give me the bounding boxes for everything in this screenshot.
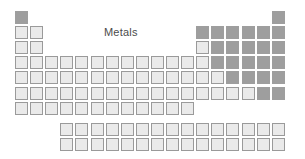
- element-cell-g16-p5: [242, 71, 255, 84]
- element-cell-g9-p6: [136, 87, 149, 100]
- element-cell-g15-p3: [226, 41, 239, 54]
- element-cell-g12-p6: [181, 87, 194, 100]
- element-cell-g2-p2: [30, 26, 43, 39]
- element-cell-g8-p5: [121, 71, 134, 84]
- lanthanides-cell-11: [211, 123, 224, 136]
- element-cell-g9-p5: [136, 71, 149, 84]
- element-cell-g14-p5: [211, 71, 224, 84]
- element-cell-g11-p7: [166, 102, 179, 115]
- actinides-cell-6: [136, 138, 149, 151]
- element-cell-g16-p2: [242, 26, 255, 39]
- actinides-cell-12: [226, 138, 239, 151]
- element-cell-g15-p4: [226, 56, 239, 69]
- element-cell-g18-p6: [272, 87, 285, 100]
- element-cell-g16-p4: [242, 56, 255, 69]
- lanthanides-cell-8: [166, 123, 179, 136]
- element-cell-g6-p5: [91, 71, 104, 84]
- element-cell-g2-p4: [30, 56, 43, 69]
- actinides-cell-1: [60, 138, 73, 151]
- actinides-cell-5: [121, 138, 134, 151]
- element-cell-g1-p7: [15, 102, 28, 115]
- actinides-cell-2: [75, 138, 88, 151]
- element-cell-g14-p2: [211, 26, 224, 39]
- element-cell-g1-p6: [15, 87, 28, 100]
- element-cell-g5-p4: [75, 56, 88, 69]
- lanthanides-cell-10: [196, 123, 209, 136]
- element-cell-g14-p4: [211, 56, 224, 69]
- element-cell-g4-p5: [60, 71, 73, 84]
- lanthanides-cell-3: [91, 123, 104, 136]
- element-cell-g3-p5: [45, 71, 58, 84]
- element-cell-g13-p4: [196, 56, 209, 69]
- actinides-cell-4: [106, 138, 119, 151]
- lanthanides-cell-1: [60, 123, 73, 136]
- element-cell-g13-p5: [196, 71, 209, 84]
- element-cell-g3-p4: [45, 56, 58, 69]
- lanthanides-cell-4: [106, 123, 119, 136]
- element-cell-g7-p4: [106, 56, 119, 69]
- actinides-cell-7: [151, 138, 164, 151]
- periodic-table-diagram: Metals: [0, 0, 305, 159]
- element-cell-g2-p6: [30, 87, 43, 100]
- element-cell-g12-p4: [181, 56, 194, 69]
- element-cell-g8-p7: [121, 102, 134, 115]
- element-cell-g7-p5: [106, 71, 119, 84]
- element-cell-g10-p6: [151, 87, 164, 100]
- element-cell-g16-p3: [242, 41, 255, 54]
- element-cell-g17-p2: [257, 26, 270, 39]
- element-cell-g11-p5: [166, 71, 179, 84]
- element-cell-g9-p4: [136, 56, 149, 69]
- lanthanides-cell-13: [242, 123, 255, 136]
- element-cell-g15-p6: [226, 87, 239, 100]
- element-cell-g4-p4: [60, 56, 73, 69]
- lanthanides-cell-7: [151, 123, 164, 136]
- element-cell-g1-p2: [15, 26, 28, 39]
- actinides-cell-9: [181, 138, 194, 151]
- element-cell-g15-p2: [226, 26, 239, 39]
- actinides-cell-11: [211, 138, 224, 151]
- element-cell-g16-p6: [242, 87, 255, 100]
- lanthanides-cell-15: [272, 123, 285, 136]
- element-cell-g14-p3: [211, 41, 224, 54]
- element-cell-g17-p4: [257, 56, 270, 69]
- element-cell-g3-p7: [45, 102, 58, 115]
- actinides-cell-15: [272, 138, 285, 151]
- lanthanides-cell-14: [257, 123, 270, 136]
- element-cell-g10-p5: [151, 71, 164, 84]
- element-cell-g15-p5: [226, 71, 239, 84]
- metals-label: Metals: [104, 27, 138, 38]
- element-cell-g1-p5: [15, 71, 28, 84]
- element-cell-g18-p3: [272, 41, 285, 54]
- element-cell-g5-p5: [75, 71, 88, 84]
- actinides-cell-14: [257, 138, 270, 151]
- element-cell-g17-p3: [257, 41, 270, 54]
- element-cell-g18-p2: [272, 26, 285, 39]
- element-cell-g2-p5: [30, 71, 43, 84]
- element-cell-g7-p6: [106, 87, 119, 100]
- element-cell-g6-p6: [91, 87, 104, 100]
- lanthanides-cell-5: [121, 123, 134, 136]
- element-cell-g8-p6: [121, 87, 134, 100]
- element-cell-g1-p3: [15, 41, 28, 54]
- element-cell-g17-p5: [257, 71, 270, 84]
- element-cell-g18-p1: [272, 11, 285, 24]
- element-cell-g7-p7: [106, 102, 119, 115]
- element-cell-g10-p7: [151, 102, 164, 115]
- element-cell-g14-p6: [211, 87, 224, 100]
- element-cell-g6-p7: [91, 102, 104, 115]
- element-cell-g6-p4: [91, 56, 104, 69]
- element-cell-g13-p6: [196, 87, 209, 100]
- element-cell-g17-p6: [257, 87, 270, 100]
- element-cell-g5-p7: [75, 102, 88, 115]
- element-cell-g18-p5: [272, 71, 285, 84]
- element-cell-g1-p4: [15, 56, 28, 69]
- actinides-cell-13: [242, 138, 255, 151]
- actinides-cell-3: [91, 138, 104, 151]
- element-cell-g13-p2: [196, 26, 209, 39]
- lanthanides-cell-9: [181, 123, 194, 136]
- element-cell-g12-p5: [181, 71, 194, 84]
- element-cell-g1-p1: [15, 11, 28, 24]
- actinides-cell-10: [196, 138, 209, 151]
- lanthanides-cell-12: [226, 123, 239, 136]
- element-cell-g2-p7: [30, 102, 43, 115]
